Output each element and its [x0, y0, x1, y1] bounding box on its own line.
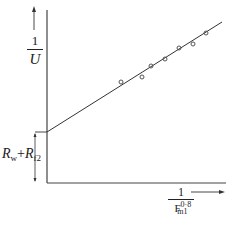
r-symbol: R [25, 146, 34, 161]
x-label-denominator: F0·8m1 [168, 201, 194, 216]
intercept-label: Rw+Rf2 [2, 147, 41, 163]
y-axis-label: 1 U [25, 34, 45, 67]
y-label-denominator: U [25, 52, 45, 67]
subscript: m1 [177, 207, 187, 216]
y-label-numerator: 1 [25, 34, 45, 47]
r-symbol: R [2, 146, 11, 161]
x-label-numerator: 1 [168, 186, 194, 198]
plus-sign: + [17, 146, 25, 161]
r-sub-f2: f2 [34, 153, 42, 163]
fraction-bar [27, 49, 43, 50]
fit-line [47, 22, 222, 132]
x-axis-label: 1 F0·8m1 [168, 186, 194, 216]
